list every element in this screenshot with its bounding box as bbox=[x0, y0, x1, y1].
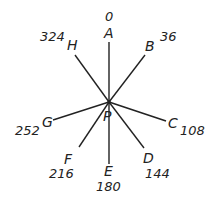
label-p: P bbox=[103, 109, 111, 123]
label-b: B bbox=[145, 39, 155, 53]
angle-h: 324 bbox=[40, 30, 65, 44]
label-a: A bbox=[104, 26, 114, 40]
label-g: G bbox=[42, 115, 53, 129]
angle-diagram: 0 A 36 B C 108 D 144 E 180 F 216 G 252 H… bbox=[0, 0, 216, 205]
label-d: D bbox=[143, 151, 154, 165]
angle-a: 0 bbox=[105, 10, 113, 24]
angle-d: 144 bbox=[145, 167, 170, 181]
label-f: F bbox=[64, 152, 72, 166]
angle-b: 36 bbox=[160, 30, 177, 44]
angle-g: 252 bbox=[15, 124, 40, 138]
label-h: H bbox=[67, 38, 78, 52]
label-e: E bbox=[104, 164, 113, 178]
angle-e: 180 bbox=[96, 180, 121, 194]
angle-f: 216 bbox=[49, 167, 74, 181]
label-c: C bbox=[168, 116, 178, 130]
angle-c: 108 bbox=[180, 124, 205, 138]
